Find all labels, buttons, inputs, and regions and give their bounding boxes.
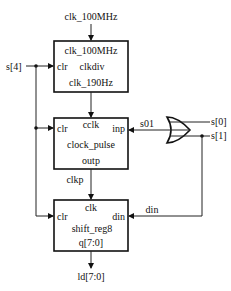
clock-pulse-port-outp: outp: [82, 155, 100, 166]
shift-reg8-name: shift_reg8: [72, 223, 113, 234]
din-signal-label: din: [146, 204, 159, 215]
clk-100mhz-input-label: clk_100MHz: [65, 11, 118, 22]
clock-pulse-port-cclk: cclk: [83, 119, 100, 130]
shift-reg8-port-q: q[7:0]: [79, 237, 103, 248]
circuit-diagram: clk_100MHz clk_100MHz clr clkdiv clk_190…: [0, 0, 231, 291]
din-wire: [129, 136, 202, 216]
junction-dot: [34, 126, 38, 130]
clock-pulse-name: clock_pulse: [67, 139, 115, 150]
clkdiv-port-out: clk_190Hz: [69, 77, 113, 88]
shift-reg8-port-din: din: [112, 211, 125, 222]
clock-pulse-port-inp: inp: [112, 123, 125, 134]
shift-reg8-port-clr: clr: [57, 211, 68, 222]
clr-bus-wire: [36, 66, 53, 216]
s4-input-label: s[4]: [6, 61, 22, 72]
clkp-signal-label: clkp: [66, 174, 83, 185]
s1-input-label: s[1]: [211, 130, 227, 141]
clkdiv-port-clk: clk_100MHz: [65, 45, 118, 56]
s0-input-label: s[0]: [211, 116, 227, 127]
clkdiv-port-clr: clr: [57, 61, 68, 72]
clock-pulse-port-clr: clr: [57, 123, 68, 134]
ld-output-label: ld[7:0]: [77, 271, 104, 282]
shift-reg8-port-clk: clk: [85, 202, 97, 213]
s01-signal-label: s01: [140, 118, 154, 129]
clkdiv-name: clkdiv: [80, 61, 105, 72]
